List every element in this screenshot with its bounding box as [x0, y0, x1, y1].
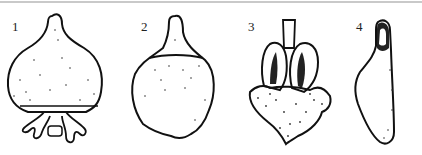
figure-1: 1: [0, 0, 115, 155]
figure-3: 3: [240, 0, 340, 155]
figure-4: 4: [350, 0, 410, 155]
figure-2-drawing: [125, 0, 220, 155]
figure-2: 2: [125, 0, 220, 155]
figure-3-drawing: [240, 0, 340, 155]
figure-4-drawing: [350, 0, 410, 155]
figure-1-drawing: [0, 0, 115, 155]
